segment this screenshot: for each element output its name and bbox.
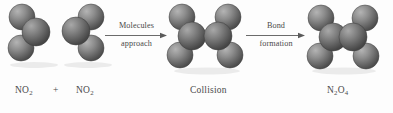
molecule-collision-complex [166,3,248,75]
molecule-no2-reactant-one [4,3,66,69]
n2o4-product-svg [305,3,385,75]
arrow-bond-formation: Bond formation [246,21,306,50]
label-collision: Collision [190,85,227,95]
label-reactant-one-formula: NO [15,85,29,95]
collision-complex-svg [166,3,248,75]
reaction-diagram: Molecules approach Bond f [0,0,393,113]
label-reactant-one: NO2 [15,85,33,95]
arrow-line-2 [246,32,306,39]
arrow-label-top-1: Molecules [105,21,168,31]
label-product: N2O4 [327,85,348,95]
label-product-part2: O [338,85,345,95]
label-reactant-one-sub: 2 [29,89,33,96]
arrow-label-bottom-2: formation [246,39,306,49]
arrow-label-top-2: Bond [246,21,306,31]
label-reactant-two-sub: 2 [90,89,94,96]
label-reactant-two: NO2 [76,85,94,95]
arrow-molecules-approach: Molecules approach [105,21,168,50]
arrow-line-1 [105,32,168,39]
label-product-sub2: 4 [345,89,349,96]
label-product-part1: N [327,85,334,95]
molecule-n2o4-product [305,3,385,75]
label-plus: + [53,85,58,95]
arrow-label-bottom-1: approach [105,39,168,49]
label-product-sub1: 2 [334,89,338,96]
no2-reactant-one-svg [4,3,66,69]
label-reactant-two-formula: NO [76,85,90,95]
